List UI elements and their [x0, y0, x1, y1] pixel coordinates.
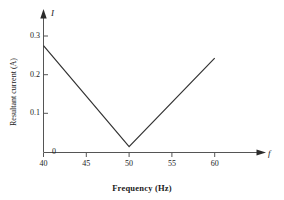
data-series-resultant-current	[44, 46, 215, 147]
x-axis-ticks	[44, 153, 215, 158]
y-tick-label-0-1: 0.1	[22, 109, 40, 117]
y-axis-variable-symbol: I	[51, 9, 54, 18]
y-tick-label-0-2: 0.2	[22, 71, 40, 79]
x-axis-arrowhead	[257, 149, 267, 155]
x-axis-title: Frequency (Hz)	[112, 184, 172, 193]
chart-figure: 40 45 50 55 60 0 0.1 0.2 0.3 I f Frequen…	[0, 0, 284, 200]
chart-plot-area	[0, 0, 284, 200]
y-axis-arrowhead	[40, 9, 46, 19]
y-tick-label-0: 0	[40, 148, 56, 156]
x-axis-variable-symbol: f	[268, 149, 271, 158]
y-tick-label-0-3: 0.3	[22, 32, 40, 40]
x-tick-label-55: 55	[168, 160, 176, 168]
x-tick-label-60: 60	[211, 160, 219, 168]
x-tick-label-45: 45	[82, 160, 90, 168]
y-axis-title: Resultant current (A)	[10, 58, 18, 126]
x-tick-label-40: 40	[40, 160, 48, 168]
x-tick-label-50: 50	[125, 160, 133, 168]
